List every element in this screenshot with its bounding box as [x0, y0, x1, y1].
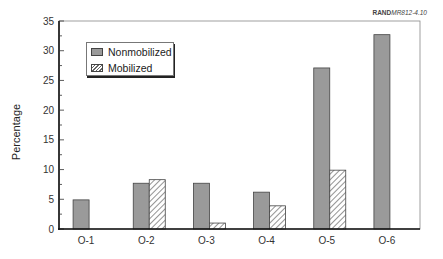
bar-mobilized [270, 206, 286, 229]
y-tick-label: 30 [43, 45, 55, 56]
solid-swatch-icon [91, 48, 103, 56]
bar-mobilized [209, 223, 225, 229]
y-tick-label: 10 [43, 164, 55, 175]
hatch-swatch-icon [91, 64, 103, 72]
legend-item-nonmobilized: Nonmobilized [87, 45, 173, 59]
bar-nonmobilized [254, 192, 270, 229]
bar-nonmobilized [73, 200, 89, 229]
bar-nonmobilized [133, 183, 149, 229]
x-tick-label: O-5 [318, 235, 335, 246]
bar-nonmobilized [314, 68, 330, 229]
legend: Nonmobilized Mobilized [86, 42, 174, 76]
x-tick-label: O-2 [138, 235, 155, 246]
x-tick-label: O-6 [379, 235, 396, 246]
x-tick-label: O-4 [258, 235, 275, 246]
legend-item-mobilized: Mobilized [87, 61, 173, 75]
bar-mobilized [149, 180, 165, 229]
y-tick-label: 15 [43, 134, 55, 145]
y-tick-label: 0 [48, 224, 54, 235]
y-tick-label: 20 [43, 105, 55, 116]
bar-mobilized [330, 170, 346, 229]
bar-nonmobilized [374, 35, 390, 229]
y-tick-label: 25 [43, 75, 55, 86]
y-tick-label: 5 [48, 194, 54, 205]
x-tick-label: O-3 [198, 235, 215, 246]
bar-nonmobilized [193, 183, 209, 229]
bar-chart: 05101520253035O-1O-2O-3O-4O-5O-6 [0, 0, 443, 259]
x-tick-label: O-1 [78, 235, 95, 246]
y-tick-label: 35 [43, 16, 55, 27]
